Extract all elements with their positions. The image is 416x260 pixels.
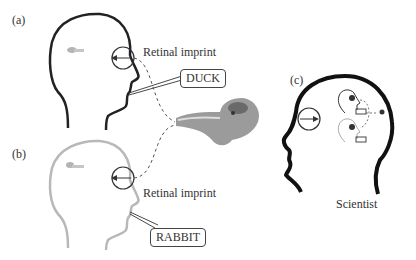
dashed-sightline-a: [134, 58, 175, 122]
brain-image-icon-b: [66, 162, 84, 168]
duck-rabbit-image: [176, 98, 259, 145]
panel-label-a: (a): [12, 14, 25, 26]
panel-label-c: (c): [290, 74, 303, 86]
panel-label-b: (b): [12, 148, 26, 160]
retinal-imprint-label-a: Retinal imprint: [143, 46, 216, 58]
speech-box-duck: DUCK: [180, 69, 226, 88]
retinal-imprint-label-b: Retinal imprint: [143, 187, 216, 199]
head-c: [284, 76, 392, 194]
speech-box-rabbit: RABBIT: [150, 228, 206, 247]
dashed-sightline-b: [134, 125, 175, 178]
head-a: [50, 14, 182, 130]
brain-image-icon-a: [67, 47, 84, 53]
head-b: [50, 141, 158, 250]
duck-rabbit-diagram: (a) Retinal imprint DUCK (b) Retinal imp…: [0, 0, 416, 260]
diagram-drawing: [0, 0, 416, 260]
scientist-caption: Scientist: [336, 198, 377, 210]
